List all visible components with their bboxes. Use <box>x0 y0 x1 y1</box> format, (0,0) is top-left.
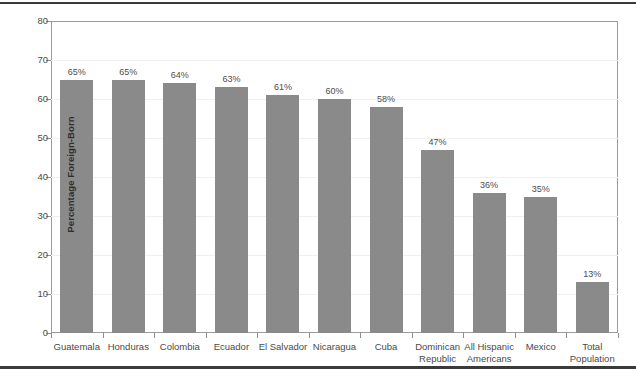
chart-figure: 65%65%64%63%61%60%58%47%36%35%13% Percen… <box>0 0 636 377</box>
x-axis-category-label-line: Ecuador <box>206 341 258 353</box>
x-axis-category-label-line: Nicaragua <box>309 341 361 353</box>
x-axis-category-label: Guatemala <box>51 341 103 353</box>
x-axis-tick-mark <box>566 333 567 338</box>
x-axis-tick-mark <box>257 333 258 338</box>
x-axis-category-label-line: Americans <box>463 353 515 365</box>
bar <box>421 150 454 333</box>
x-axis-category-label-line: Colombia <box>154 341 206 353</box>
bar <box>112 80 145 334</box>
x-axis-category-label: Mexico <box>515 341 567 353</box>
x-axis-category-label-line: Guatemala <box>51 341 103 353</box>
x-axis-tick-mark <box>463 333 464 338</box>
bar <box>524 197 557 334</box>
x-axis-category-label: Nicaragua <box>309 341 361 353</box>
bar <box>473 193 506 333</box>
x-axis-tick-mark <box>515 333 516 338</box>
x-axis-category-label-line: Republic <box>412 353 464 365</box>
bar <box>318 99 351 333</box>
plot-area: 65%65%64%63%61%60%58%47%36%35%13% Percen… <box>51 21 618 333</box>
x-axis-tick-mark <box>618 333 619 338</box>
x-axis-category-label: Honduras <box>103 341 155 353</box>
x-axis-category-label-line: El Salvador <box>257 341 309 353</box>
x-axis-tick-mark <box>154 333 155 338</box>
bar-value-label: 58% <box>356 94 416 104</box>
x-axis-category-label: All HispanicAmericans <box>463 341 515 364</box>
bar <box>163 83 196 333</box>
y-axis-tick-label: 60 <box>37 94 48 104</box>
x-axis-tick-mark <box>103 333 104 338</box>
bar-value-label: 13% <box>562 269 622 279</box>
y-axis-tick-label: 0 <box>43 328 48 338</box>
y-axis-tick-label: 70 <box>37 55 48 65</box>
y-axis-title: Percentage Foreign-Born <box>65 80 76 270</box>
bar <box>266 95 299 333</box>
top-divider-rule <box>0 2 636 4</box>
x-axis-category-label-line: Total <box>566 341 618 353</box>
x-axis-category-label-line: Cuba <box>360 341 412 353</box>
bottom-divider-rule <box>0 366 636 369</box>
x-axis-category-label-line: Honduras <box>103 341 155 353</box>
x-axis-category-label: El Salvador <box>257 341 309 353</box>
x-axis-category-label-line: Mexico <box>515 341 567 353</box>
x-axis-category-label: Colombia <box>154 341 206 353</box>
x-axis-category-label-line: Dominican <box>412 341 464 353</box>
bar-value-label: 35% <box>511 184 571 194</box>
gridline <box>51 60 618 61</box>
y-axis-tick-label: 30 <box>37 211 48 221</box>
x-axis-category-label: TotalPopulation <box>566 341 618 364</box>
y-axis-tick-label: 80 <box>37 16 48 26</box>
x-axis-category-label: DominicanRepublic <box>412 341 464 364</box>
bar <box>576 282 609 333</box>
x-axis-tick-mark <box>51 333 52 338</box>
y-axis-tick-label: 10 <box>37 289 48 299</box>
x-axis-category-label: Ecuador <box>206 341 258 353</box>
y-axis-tick-label: 20 <box>37 250 48 260</box>
x-axis-category-label-line: All Hispanic <box>463 341 515 353</box>
bar <box>370 107 403 333</box>
y-axis-tick-label: 40 <box>37 172 48 182</box>
bar <box>215 87 248 333</box>
x-axis-category-label-line: Population <box>566 353 618 365</box>
x-axis-tick-mark <box>360 333 361 338</box>
x-axis-tick-mark <box>206 333 207 338</box>
bar-value-label: 47% <box>408 137 468 147</box>
x-axis-tick-mark <box>309 333 310 338</box>
x-axis-tick-mark <box>412 333 413 338</box>
y-axis-tick-label: 50 <box>37 133 48 143</box>
x-axis-category-label: Cuba <box>360 341 412 353</box>
